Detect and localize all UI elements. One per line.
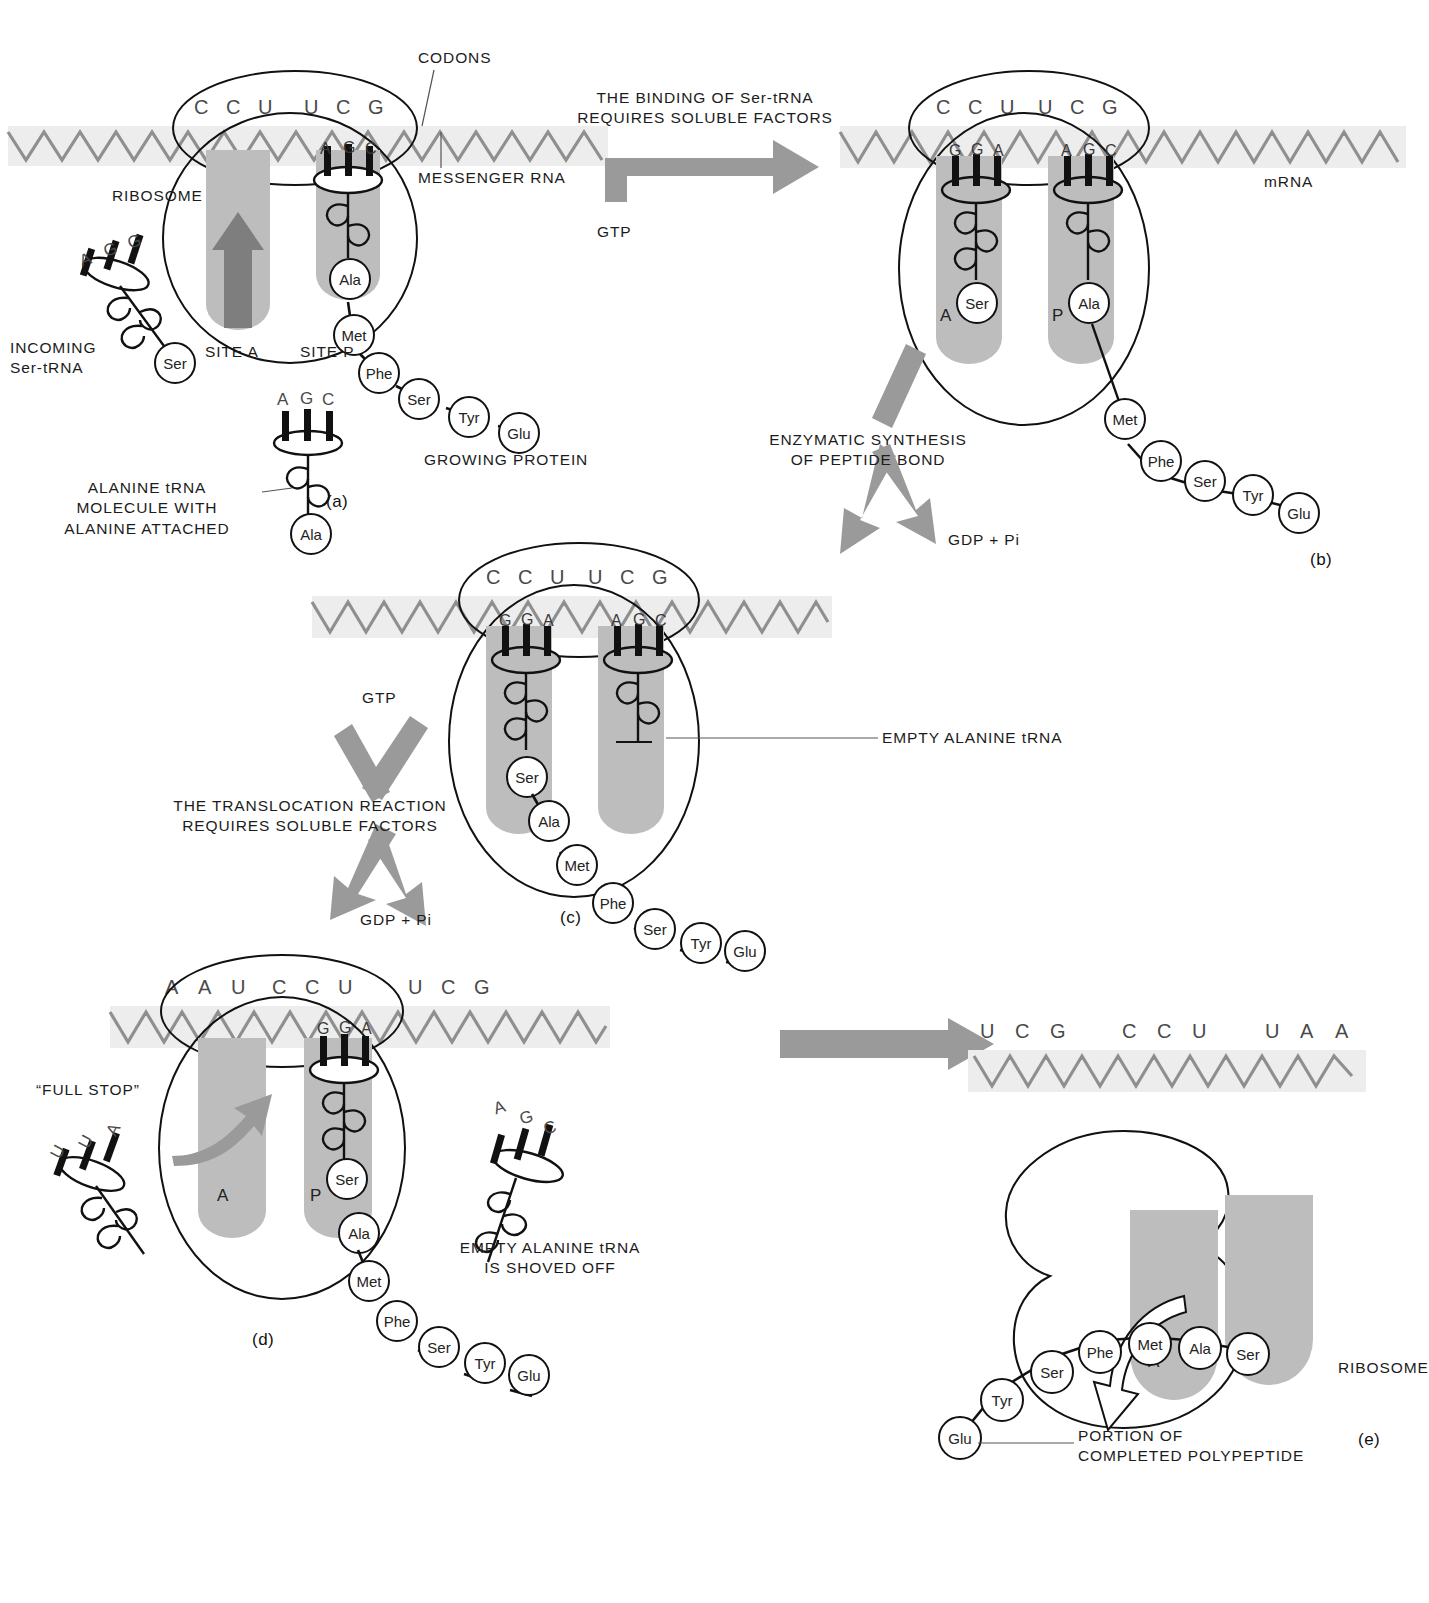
- panel-label-a-text: (a): [326, 492, 348, 511]
- codon-letter: C: [1122, 1020, 1136, 1043]
- leader-mrna: [437, 132, 447, 172]
- site-a-letter-b: A: [940, 306, 951, 326]
- arrow-bc-caption: ENZYMATIC SYNTHESIS OF PEPTIDE BOND: [718, 430, 1018, 471]
- panel-label-e: (e): [1358, 1430, 1380, 1450]
- amino-acid-node: Ala: [528, 800, 570, 842]
- anticodon-letter: C: [655, 612, 667, 630]
- anticodon-letter: G: [339, 1019, 351, 1037]
- amino-acid-node: Phe: [592, 882, 634, 924]
- arrow-cd-input-gtp: GTP: [362, 688, 397, 708]
- arrow-bc-output-gdp: GDP + Pi: [948, 530, 1020, 550]
- anticodon-letter: G: [633, 611, 645, 629]
- amino-acid-node: Ser: [1030, 1350, 1074, 1394]
- arrow-c-to-d-group: GTP THE TRANSLOCATION REACTION REQUIRES …: [160, 668, 500, 938]
- panel-label-b: (b): [1310, 550, 1332, 570]
- callout-codons: CODONS: [418, 48, 491, 68]
- amino-acid-node: Glu: [938, 1416, 982, 1460]
- label-ribosome-e: RIBOSOME: [1338, 1358, 1429, 1378]
- anticodon-letter: G: [317, 1020, 329, 1038]
- panel-label-e-text: (e): [1358, 1430, 1380, 1449]
- anticodon-letter: A: [277, 390, 288, 410]
- arrow-a-to-b-group: THE BINDING OF Ser-tRNA REQUIRES SOLUBLE…: [565, 80, 865, 280]
- panel-label-d: (d): [252, 1330, 274, 1350]
- amino-acid-node: Tyr: [1232, 474, 1274, 516]
- panel-label-d-text: (d): [252, 1330, 274, 1349]
- codon-letter: U: [1192, 1020, 1206, 1043]
- amino-acid-node: Met: [1104, 398, 1146, 440]
- anticodon-letter: G: [343, 139, 355, 157]
- anticodon-letter: G: [521, 611, 533, 629]
- anticodon-letter: A: [320, 140, 331, 158]
- p-site-trna-a: [300, 140, 400, 270]
- amino-acid-node: Tyr: [680, 922, 722, 964]
- codon-letter: G: [1050, 1020, 1066, 1043]
- amino-acid-node: Glu: [1278, 492, 1320, 534]
- arrow-ab-input-gtp: GTP: [597, 222, 632, 242]
- site-a-letter-d: A: [217, 1186, 228, 1206]
- leader-alanine-trna: [262, 486, 296, 498]
- label-full-stop: “FULL STOP”: [36, 1080, 140, 1100]
- leader-empty-alanine-trna-c: [666, 728, 896, 748]
- anticodon-letter: A: [611, 612, 622, 630]
- codon-letter: U: [408, 976, 422, 999]
- anticodon-letter: C: [1105, 142, 1117, 160]
- codon-letter: C: [1157, 1020, 1171, 1043]
- callout-growing-protein: GROWING PROTEIN: [424, 450, 588, 470]
- codon-letter: C: [1015, 1020, 1029, 1043]
- codon-letter: A: [1300, 1020, 1313, 1043]
- amino-acid-node: Glu: [498, 412, 540, 454]
- anticodon-letter: A: [1061, 142, 1072, 160]
- amino-acid-node: Tyr: [980, 1378, 1024, 1422]
- amino-acid-node: Ser: [154, 342, 196, 384]
- codon-letter: U: [980, 1020, 994, 1043]
- amino-acid-node: Ala: [290, 513, 332, 555]
- arrow-ab-shape: [583, 128, 843, 218]
- anticodon-letter: G: [1083, 141, 1095, 159]
- amino-acid-node: Tyr: [448, 396, 490, 438]
- callout-empty-alanine-trna-c: EMPTY ALANINE tRNA: [882, 728, 1062, 748]
- amino-acid-node: Ser: [1226, 1332, 1270, 1376]
- anticodon-letter: G: [949, 142, 961, 160]
- amino-acid-node: Ser: [634, 908, 676, 950]
- panel-e: U C G C C U U A A A P RIBOSOME Glu: [860, 960, 1418, 1520]
- codon-letter: C: [441, 976, 455, 999]
- anticodon-letter: A: [361, 1020, 372, 1038]
- codon-letter: U: [1265, 1020, 1279, 1043]
- callout-site-a: SITE A: [205, 342, 259, 362]
- anticodon-letter: G: [971, 141, 983, 159]
- amino-acid-node: Ser: [326, 1158, 368, 1200]
- arrow-b-to-c-group: ENZYMATIC SYNTHESIS OF PEPTIDE BOND GDP …: [740, 340, 1060, 560]
- arrow-cd-output-gdp: GDP + Pi: [360, 910, 432, 930]
- amino-acid-node: Tyr: [464, 1342, 506, 1384]
- arrow-cd-caption: THE TRANSLOCATION REACTION REQUIRES SOLU…: [150, 796, 470, 837]
- arrow-ab-caption: THE BINDING OF Ser-tRNA REQUIRES SOLUBLE…: [565, 88, 845, 129]
- panel-d: A A U C C U U C G A P G G A Ser: [20, 960, 760, 1380]
- amino-acid-node: Phe: [376, 1300, 418, 1342]
- amino-acid-node: Ser: [1184, 460, 1226, 502]
- amino-acid-node: Met: [348, 1260, 390, 1302]
- codon-letter: A: [1335, 1020, 1348, 1043]
- panel-a: C C U U C G A G C Ala: [0, 0, 620, 520]
- panel-label-b-text: (b): [1310, 550, 1332, 569]
- label-mrna-b: mRNA: [1264, 172, 1313, 192]
- anticodon-letter: A: [993, 142, 1004, 160]
- callout-site-p: SITE P: [300, 342, 355, 362]
- amino-acid-node: Phe: [358, 352, 400, 394]
- site-p-letter-b: P: [1052, 306, 1063, 326]
- anticodon-letter: C: [322, 390, 334, 410]
- p-site-empty-trna-c: [594, 616, 690, 796]
- amino-acid-node: Ser: [418, 1326, 460, 1368]
- leader-polypeptide-e: [978, 1436, 1088, 1450]
- amino-acid-node: Phe: [1140, 440, 1182, 482]
- panel-label-c: (c): [560, 908, 581, 928]
- amino-acid-node: Ser: [956, 282, 998, 324]
- callout-completed-polypeptide: PORTION OF COMPLETED POLYPEPTIDE: [1078, 1426, 1304, 1467]
- callout-ribosome: RIBOSOME: [112, 186, 203, 206]
- callout-alanine-trna: ALANINE tRNA MOLECULE WITH ALANINE ATTAC…: [32, 478, 262, 539]
- amino-acid-node: Ser: [398, 378, 440, 420]
- anticodon-letter: G: [499, 612, 511, 630]
- amino-acid-node: Met: [556, 844, 598, 886]
- anticodon-letter: A: [543, 612, 554, 630]
- amino-acid-node: Ala: [1178, 1326, 1222, 1370]
